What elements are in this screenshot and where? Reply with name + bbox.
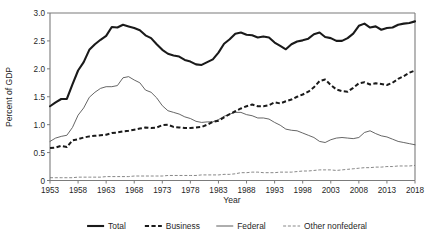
x-tick-label: 2003	[322, 186, 341, 195]
y-tick-label: 0	[40, 177, 45, 186]
legend-label-other-nonfederal[interactable]: Other nonfederal	[304, 221, 367, 231]
x-tick-label: 1958	[69, 186, 88, 195]
y-tick-label: 1.0	[34, 121, 46, 130]
chart-figure: Percent of GDP 00.51.01.52.02.53.0 19531…	[0, 0, 428, 241]
y-tick-label: 2.5	[34, 37, 46, 46]
y-tick-label: 1.5	[34, 93, 46, 102]
x-tick-label: 1953	[41, 186, 60, 195]
y-axis-tick-labels: 00.51.01.52.02.53.0	[34, 9, 46, 186]
y-axis-title: Percent of GDP	[4, 67, 14, 127]
x-tick-label: 1978	[181, 186, 200, 195]
x-tick-label: 1983	[209, 186, 228, 195]
x-tick-label: 1963	[97, 186, 116, 195]
x-tick-label: 2013	[378, 186, 397, 195]
chart-legend: TotalBusinessFederalOther nonfederal	[87, 221, 367, 231]
y-tick-label: 2.0	[34, 65, 46, 74]
x-axis-tick-labels: 1953195819631968197319781983198819931998…	[41, 186, 425, 195]
x-axis-title: Year	[223, 195, 241, 205]
x-tick-label: 2008	[350, 186, 369, 195]
x-tick-label: 1993	[266, 186, 285, 195]
y-axis-title-group: Percent of GDP	[4, 67, 14, 127]
series-line-federal	[50, 77, 415, 145]
y-tick-label: 0.5	[34, 149, 46, 158]
line-chart: Percent of GDP 00.51.01.52.02.53.0 19531…	[0, 0, 428, 241]
x-tick-label: 2018	[406, 186, 425, 195]
legend-label-business[interactable]: Business	[166, 221, 200, 231]
legend-label-total[interactable]: Total	[108, 221, 126, 231]
x-tick-label: 1968	[125, 186, 144, 195]
series-line-other-nonfederal	[50, 165, 415, 177]
x-tick-label: 1988	[237, 186, 256, 195]
series-line-total	[50, 21, 415, 106]
x-tick-label: 1973	[153, 186, 172, 195]
legend-label-federal[interactable]: Federal	[237, 221, 266, 231]
y-tick-label: 3.0	[34, 9, 46, 18]
x-tick-label: 1998	[294, 186, 313, 195]
